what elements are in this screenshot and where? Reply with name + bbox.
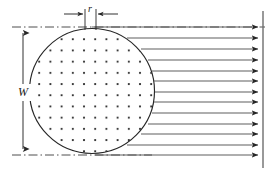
figure-container: W r xyxy=(0,0,275,175)
cross-section-flow-diagram: W r xyxy=(0,0,275,175)
circular-cross-section xyxy=(30,29,155,154)
dot-grid-fill xyxy=(30,29,155,154)
radius-dimension-label: r xyxy=(88,3,92,14)
width-dimension-label: W xyxy=(18,85,29,99)
